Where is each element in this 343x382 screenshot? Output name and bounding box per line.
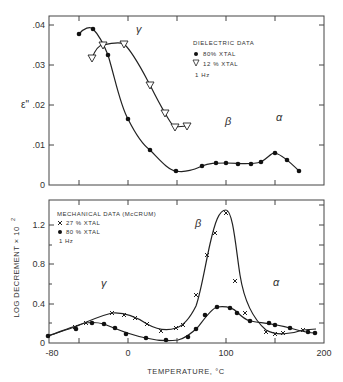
bottom-legend-note: 1 Hz <box>59 238 73 244</box>
bottom-alpha-label: α <box>273 276 280 288</box>
bottom-ytick-label: 0.8 <box>32 259 45 269</box>
top-plot-frame <box>49 16 324 185</box>
bottom-ytick-label: 1.2 <box>32 220 45 230</box>
top-alpha-label: α <box>276 111 283 123</box>
legend-filled-circle-icon <box>58 230 62 234</box>
top-panel: .04 .03 .02 .01 0 ε" DIELECTRIC DATA 80%… <box>21 16 324 190</box>
bottom-ylabel-sup: 2 <box>10 218 16 221</box>
legend-x-marker-icon <box>58 221 62 225</box>
top-legend: DIELECTRIC DATA 80% XTAL 12 % XTAL 1 Hz <box>193 40 254 78</box>
bottom-beta-label: β <box>194 217 202 229</box>
top-beta-label: β <box>224 115 232 127</box>
top-legend-note: 1 Hz <box>195 72 210 78</box>
bottom-y-axis-label: LOG DECREMENT × 10 2 <box>10 218 21 318</box>
bottom-xtick-label: -80 <box>45 348 58 358</box>
bottom-ytick-label: 0.4 <box>32 299 45 309</box>
bottom-legend-entry-1: 27 % XTAL <box>66 220 101 226</box>
legend-triangle-icon <box>193 60 199 66</box>
top-y-ticks <box>49 16 324 185</box>
top-ytick-label: .03 <box>32 60 45 70</box>
bottom-gamma-label: γ <box>101 277 108 289</box>
top-markers-12pct <box>88 41 191 131</box>
top-ytick-label: 0 <box>40 180 45 190</box>
top-ytick-label: .02 <box>32 100 45 110</box>
top-ytick-label: .04 <box>32 20 45 30</box>
x-axis-label: TEMPERATURE, °C <box>147 367 225 376</box>
bottom-xtick-label: 200 <box>316 348 331 358</box>
bottom-legend: MECHANICAL DATA (McCRUM) 27 % XTAL 80 % … <box>57 211 156 244</box>
top-curve-80pct <box>79 28 299 172</box>
top-legend-entry-2: 12 % XTAL <box>203 61 238 67</box>
figure: .04 .03 .02 .01 0 ε" DIELECTRIC DATA 80%… <box>0 0 343 382</box>
bottom-xtick-label: 0 <box>125 348 130 358</box>
top-gamma-label: γ <box>136 23 143 35</box>
bottom-xtick-label: 100 <box>218 348 233 358</box>
top-y-axis-label: ε" <box>21 99 29 110</box>
bottom-legend-title: MECHANICAL DATA (McCRUM) <box>57 211 156 217</box>
bottom-ytick-label: 0 <box>40 338 45 348</box>
top-legend-title: DIELECTRIC DATA <box>193 40 254 46</box>
top-markers-80pct <box>77 27 302 174</box>
bottom-legend-entry-2: 80 % XTAL <box>66 229 101 235</box>
bottom-panel: 1.2 0.8 0.4 0 -80 0 100 200 TEMPERATURE,… <box>10 200 332 376</box>
legend-filled-circle-icon <box>194 52 198 56</box>
top-ytick-label: .01 <box>32 140 45 150</box>
top-legend-entry-1: 80% XTAL <box>203 51 236 57</box>
bottom-ylabel-text: LOG DECREMENT × 10 <box>12 226 21 317</box>
